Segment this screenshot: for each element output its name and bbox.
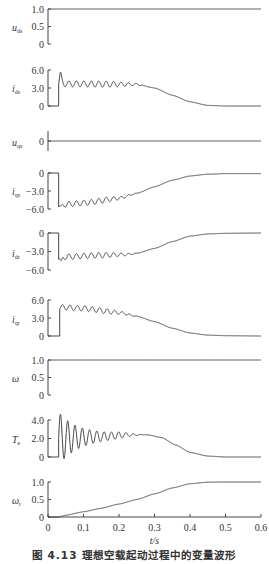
panel-w_r: 00.51.0ωr: [12, 477, 261, 523]
y-tick-label: 0: [39, 452, 44, 463]
x-tick-label: 0.2: [113, 522, 126, 533]
panel-i_qr: 03.06.0iqr: [12, 295, 261, 342]
y-tick-label: 0.5: [32, 494, 45, 505]
y-tick-label: 2.0: [32, 433, 45, 444]
series-label: uds: [12, 22, 23, 34]
waveform-curve: [48, 173, 261, 207]
y-tick-label: 0: [39, 168, 44, 179]
x-tick-label: 0.6: [255, 522, 268, 533]
panel-i_dr: −6.0−3.00idr: [12, 228, 261, 276]
y-tick-label: 0.5: [32, 372, 45, 383]
series-label: Te: [12, 434, 21, 446]
x-tick-label: 0: [46, 522, 51, 533]
y-tick-label: 3.0: [32, 83, 45, 94]
y-tick-label: −3.0: [26, 186, 44, 197]
series-label: ω: [12, 373, 19, 384]
panel-u_qs: 0uqs: [12, 131, 261, 151]
y-tick-label: 0: [39, 512, 44, 523]
y-tick-label: 1.0: [32, 4, 45, 15]
x-axis-label: t/s: [150, 535, 160, 546]
panel-u_ds: 00.51.0uds: [12, 4, 261, 50]
waveform-curve: [48, 72, 261, 106]
y-tick-label: 6.0: [32, 65, 45, 76]
y-tick-label: 0: [39, 331, 44, 342]
y-tick-label: 4.0: [32, 415, 45, 426]
series-label: ωr: [12, 495, 21, 507]
plot-panels: 00.51.0uds03.06.0ids0uqs−6.0−3.00iqs−6.0…: [12, 4, 261, 523]
x-tick-label: 0.3: [148, 522, 161, 533]
waveform-curve: [48, 482, 261, 517]
y-tick-label: 1.0: [32, 355, 45, 366]
panel-w: 00.51.0ω: [12, 355, 261, 401]
y-tick-label: 3.0: [32, 313, 45, 324]
x-tick-label: 0.1: [77, 522, 90, 533]
y-tick-label: −6.0: [26, 204, 44, 215]
x-tick-label: 0.5: [219, 522, 232, 533]
y-tick-label: −6.0: [26, 265, 44, 276]
figure-caption: 图 4.13 理想空载起动过程中的变量波形: [32, 549, 236, 561]
waveform-curve: [48, 233, 261, 261]
waveform-curve: [48, 414, 261, 459]
panel-i_ds: 03.06.0ids: [12, 65, 261, 112]
waveform-curve: [48, 305, 261, 336]
x-tick-label: 0.4: [184, 522, 197, 533]
y-tick-label: −3.0: [26, 246, 44, 257]
waveform-figure: 00.51.0uds03.06.0ids0uqs−6.0−3.00iqs−6.0…: [0, 0, 269, 564]
y-tick-label: 0: [39, 136, 44, 147]
time-axis: 00.10.20.30.40.50.6: [46, 514, 268, 533]
y-tick-label: 0: [39, 228, 44, 239]
panel-T_e: 02.04.0Te: [12, 414, 261, 462]
y-tick-label: 1.0: [32, 477, 45, 488]
series-label: iqr: [12, 314, 20, 326]
y-tick-label: 0: [39, 101, 44, 112]
y-tick-label: 6.0: [32, 295, 45, 306]
series-label: iqs: [12, 186, 21, 198]
panel-i_qs: −6.0−3.00iqs: [12, 168, 261, 215]
y-tick-label: 0: [39, 39, 44, 50]
series-label: ids: [12, 83, 21, 95]
y-tick-label: 0: [39, 390, 44, 401]
series-label: idr: [12, 248, 20, 260]
y-tick-label: 0.5: [32, 21, 45, 32]
series-label: uqs: [12, 137, 23, 149]
